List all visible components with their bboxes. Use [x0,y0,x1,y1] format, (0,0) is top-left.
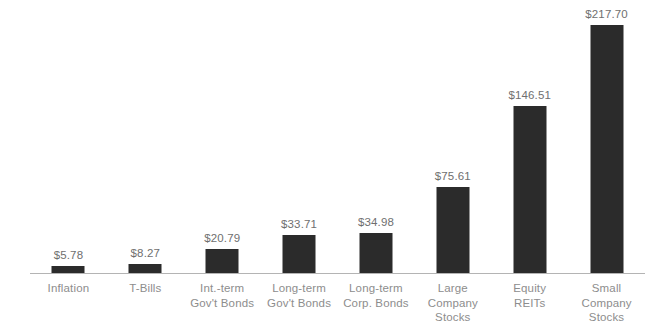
category-label-line: Large [414,281,491,296]
category-labels-layer: InflationT-BillsInt.-termGov't BondsLong… [30,281,645,333]
bar[interactable] [359,233,392,273]
bar-group: $20.79 [184,0,261,274]
bar-value-label: $8.27 [131,247,161,259]
category-label-line: Company [414,296,491,311]
x-axis-line [30,273,645,274]
category-label-line: Stocks [414,310,491,325]
category-label: Int.-termGov't Bonds [184,281,261,310]
category-label-line: Int.-term [184,281,261,296]
category-label-line: Equity [491,281,568,296]
bar-group: $8.27 [107,0,184,274]
bars-layer: $5.78$8.27$20.79$33.71$34.98$75.61$146.5… [30,0,645,274]
category-label-line: REITs [491,296,568,311]
bar[interactable] [52,266,85,273]
category-label: Inflation [30,281,107,296]
bar[interactable] [206,249,239,273]
category-label-line: Inflation [30,281,107,296]
bar-group: $33.71 [261,0,338,274]
category-label: T-Bills [107,281,184,296]
plot-area: $5.78$8.27$20.79$33.71$34.98$75.61$146.5… [0,0,665,274]
bar-group: $34.98 [338,0,415,274]
category-label: Long-termGov't Bonds [261,281,338,310]
category-label-line: Corp. Bonds [338,296,415,311]
bar-value-label: $33.71 [281,218,317,230]
bar-value-label: $5.78 [54,249,84,261]
category-label: LargeCompanyStocks [414,281,491,325]
bar[interactable] [590,25,623,273]
bar-group: $75.61 [414,0,491,274]
category-label-line: Small [568,281,645,296]
category-label-line: Company [568,296,645,311]
category-label-line: Long-term [338,281,415,296]
bar-chart: $5.78$8.27$20.79$33.71$34.98$75.61$146.5… [0,0,665,333]
bar-value-label: $34.98 [358,216,394,228]
bar[interactable] [129,264,162,273]
category-label: EquityREITs [491,281,568,310]
bar-value-label: $75.61 [435,170,471,182]
category-label-line: Stocks [568,310,645,325]
category-label-line: Gov't Bonds [261,296,338,311]
bar-value-label: $217.70 [585,8,628,20]
bar[interactable] [513,106,546,273]
category-label: SmallCompanyStocks [568,281,645,325]
bar-value-label: $146.51 [508,89,551,101]
bar[interactable] [436,187,469,273]
category-label-line: Long-term [261,281,338,296]
bar-group: $217.70 [568,0,645,274]
bar-value-label: $20.79 [204,232,240,244]
category-label-line: Gov't Bonds [184,296,261,311]
bar-group: $5.78 [30,0,107,274]
bar[interactable] [283,235,316,273]
category-label-line: T-Bills [107,281,184,296]
category-label: Long-termCorp. Bonds [338,281,415,310]
bar-group: $146.51 [491,0,568,274]
